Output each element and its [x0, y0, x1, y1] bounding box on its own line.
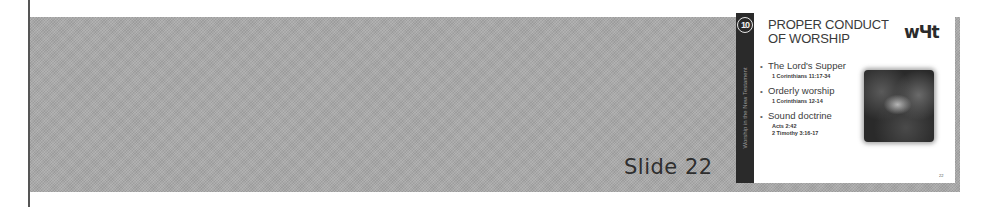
slide-title-line-2: OF WORSHIP [768, 32, 889, 46]
bullet-text: Orderly worship [768, 85, 835, 96]
series-title-vertical: Worship in the New Testament [742, 67, 748, 148]
slide-page-number: 22 [939, 173, 943, 178]
lesson-number-badge: 10 [737, 17, 753, 33]
bullet-icon: • [760, 86, 768, 97]
bullet-text: The Lord's Supper [768, 60, 846, 71]
slide-title: PROPER CONDUCT OF WORSHIP [768, 18, 889, 46]
bullet-text: Sound doctrine [768, 110, 832, 121]
slide-title-line-1: PROPER CONDUCT [768, 18, 889, 32]
wbt-logo-icon: wЧt [904, 22, 939, 42]
slide-sidebar: 10 Worship in the New Testament [736, 13, 754, 183]
notes-page: Slide 22 10 Worship in the New Testament… [0, 0, 989, 207]
slide-number-label: Slide 22 [624, 155, 713, 179]
bullet-icon: • [760, 111, 768, 122]
bullet-icon: • [760, 61, 768, 72]
slide-thumbnail[interactable]: 10 Worship in the New Testament PROPER C… [736, 13, 955, 183]
last-supper-image [864, 70, 934, 142]
